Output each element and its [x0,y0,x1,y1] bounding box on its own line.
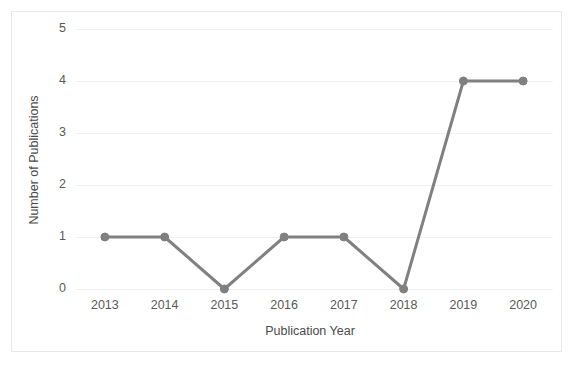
data-point-2013-1 [101,233,109,241]
y-tick-label-1: 1 [59,229,66,243]
y-axis-title: Number of Publications [27,95,41,224]
x-axis-tick-labels: 20132014201520162017201820192020 [91,298,537,312]
y-tick-label-4: 4 [59,73,66,87]
x-tick-label-2014: 2014 [151,298,179,312]
data-point-2017-1 [340,233,348,241]
x-tick-label-2016: 2016 [270,298,298,312]
data-point-2016-1 [280,233,288,241]
x-tick-label-2015: 2015 [210,298,238,312]
data-point-2014-1 [161,233,169,241]
x-tick-label-2013: 2013 [91,298,119,312]
y-tick-label-0: 0 [59,281,66,295]
x-tick-label-2017: 2017 [330,298,358,312]
data-point-2018-0 [400,285,408,293]
gridlines-group [75,29,553,289]
y-tick-label-3: 3 [59,125,66,139]
x-tick-label-2020: 2020 [509,298,537,312]
data-point-2019-4 [459,77,467,85]
data-point-2020-4 [519,77,527,85]
y-tick-label-5: 5 [59,21,66,35]
x-axis-title: Publication Year [265,324,355,338]
x-tick-label-2019: 2019 [449,298,477,312]
publications-line-chart: 012345 20132014201520162017201820192020 … [0,0,575,367]
y-axis-tick-labels: 012345 [59,21,66,295]
data-point-2015-0 [220,285,228,293]
x-tick-label-2018: 2018 [390,298,418,312]
y-tick-label-2: 2 [59,177,66,191]
